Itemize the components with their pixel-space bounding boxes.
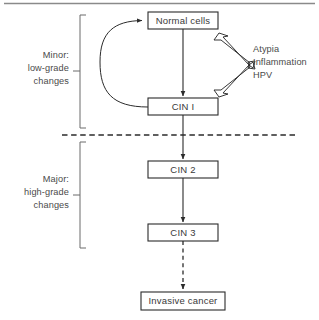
annotation-line-atypia: Atypia (253, 44, 280, 54)
node-cin-2: CIN 2 (148, 161, 218, 178)
cin-progression-diagram: Minor: low-grade changes Major: high-gra… (0, 0, 319, 320)
annotation-risk-factors: Atypia Inflammation HPV (253, 44, 307, 80)
bracket-major-line-3: changes (34, 200, 70, 210)
node-cin-3: CIN 3 (148, 224, 218, 241)
node-label-cin-3: CIN 3 (170, 227, 195, 238)
bracket-minor-line-3: changes (34, 76, 70, 86)
bracket-major: Major: high-grade changes (24, 142, 86, 248)
bracket-major-line-2: high-grade (24, 187, 69, 197)
node-normal-cells: Normal cells (148, 12, 218, 29)
annotation-line-inflammation: Inflammation (253, 57, 307, 67)
annotation-line-hpv: HPV (253, 70, 273, 80)
bracket-major-line-1: Major: (43, 174, 69, 184)
bracket-minor-line-2: low-grade (28, 63, 69, 73)
node-label-normal-cells: Normal cells (156, 15, 211, 26)
node-label-invasive-cancer: Invasive cancer (148, 295, 217, 306)
node-label-cin-1: CIN I (172, 101, 195, 112)
node-cin-1: CIN I (148, 98, 218, 115)
node-label-cin-2: CIN 2 (170, 164, 195, 175)
node-invasive-cancer: Invasive cancer (141, 292, 225, 310)
bracket-minor-line-1: Minor: (43, 50, 69, 60)
edge-cin1-feedback (100, 21, 148, 108)
bracket-minor: Minor: low-grade changes (28, 15, 86, 128)
diagram-figure: Minor: low-grade changes Major: high-gra… (0, 0, 319, 320)
